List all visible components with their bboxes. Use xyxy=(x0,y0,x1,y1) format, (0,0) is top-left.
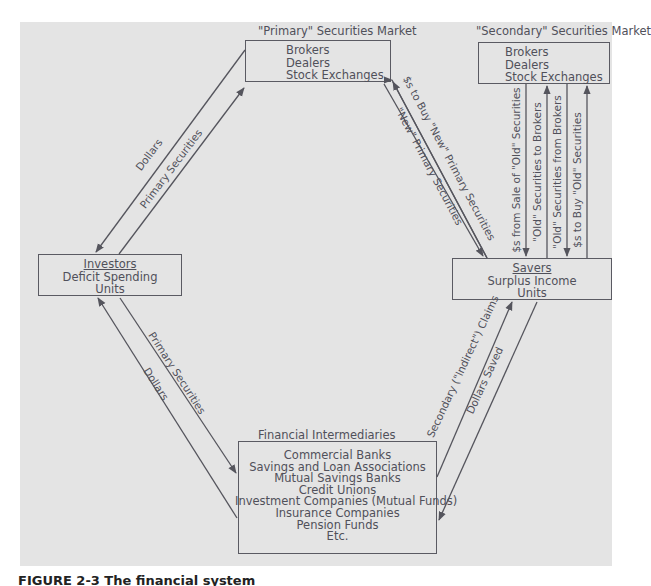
arrow-dollars-to-investors-fi xyxy=(98,298,237,518)
label-old-to-brokers: "Old" Securities to Brokers xyxy=(531,102,543,241)
arrow-primary-securities-to-fi xyxy=(120,298,236,473)
label-old-from-brokers: "Old" Securities from Brokers xyxy=(551,95,563,248)
label-dollars-buy-old: $s to Buy "Old" Securities xyxy=(571,112,583,247)
figure-caption: FIGURE 2-3 The financial system xyxy=(18,573,255,586)
label-sale-proceeds: $s from Sale of "Old" Securities xyxy=(510,87,522,252)
label-dollars-investors-primary: Dollars xyxy=(133,136,165,172)
arrow-dollars-to-investors xyxy=(96,50,245,252)
arrow-dollars-saved xyxy=(439,302,537,520)
arrow-primary-securities-to-market xyxy=(119,88,244,254)
label-dollars-buy-new: $s to Buy "New" Primary Securities xyxy=(401,74,498,242)
label-dollars-fi: Dollars xyxy=(141,365,171,402)
label-primary-securities-investors-primary: Primary Securities xyxy=(137,127,204,211)
